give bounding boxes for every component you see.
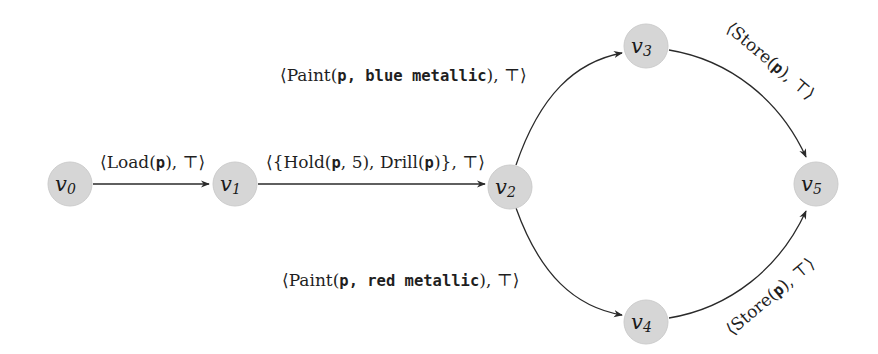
node-v3: v3 <box>624 24 668 68</box>
edge-label-v3-v5: ⟨Store(p), ⊤⟩ <box>722 18 819 104</box>
arrow-v4-v5 <box>669 211 806 318</box>
diagram-canvas: ⟨Load(p), ⊤⟩ ⟨{Hold(p, 5), Drill(p)}, ⊤⟩… <box>0 0 878 354</box>
arrow-v2-v4 <box>516 208 622 315</box>
state-graph: ⟨Load(p), ⊤⟩ ⟨{Hold(p, 5), Drill(p)}, ⊤⟩… <box>0 0 878 354</box>
arrow-v2-v3 <box>516 53 622 165</box>
edge-label-v2-v3: ⟨Paint(p, blue metallic), ⊤⟩ <box>280 65 527 85</box>
edge-v2-v4: ⟨Paint(p, red metallic), ⊤⟩ <box>282 208 622 315</box>
node-v1: v1 <box>213 162 257 206</box>
node-v2: v2 <box>488 165 532 209</box>
edge-v2-v3: ⟨Paint(p, blue metallic), ⊤⟩ <box>280 53 622 165</box>
edge-label-v1-v2: ⟨{Hold(p, 5), Drill(p)}, ⊤⟩ <box>266 152 485 172</box>
node-v5: v5 <box>794 162 838 206</box>
edge-label-v4-v5: ⟨Store(p), ⊤⟩ <box>722 253 819 339</box>
edge-v3-v5: ⟨Store(p), ⊤⟩ <box>669 18 819 157</box>
node-v4: v4 <box>624 300 668 344</box>
edge-label-v2-v4: ⟨Paint(p, red metallic), ⊤⟩ <box>282 270 519 290</box>
edge-v4-v5: ⟨Store(p), ⊤⟩ <box>669 211 819 339</box>
edge-label-v0-v1: ⟨Load(p), ⊤⟩ <box>100 152 205 172</box>
edge-v0-v1: ⟨Load(p), ⊤⟩ <box>93 152 209 184</box>
edge-v1-v2: ⟨{Hold(p, 5), Drill(p)}, ⊤⟩ <box>258 152 485 184</box>
node-v0: v0 <box>48 162 92 206</box>
